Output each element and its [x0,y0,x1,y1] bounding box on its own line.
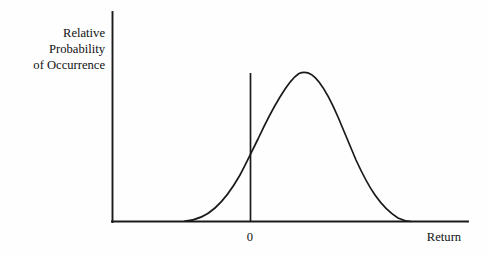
y-axis-label-line-2: Probability [49,42,106,56]
x-axis-tick-zero: 0 [247,230,253,244]
distribution-curve [185,72,411,221]
x-axis-label: Return [427,230,462,244]
probability-distribution-chart: Relative Probability of Occurrence 0 Ret… [0,0,488,254]
chart-figure: Relative Probability of Occurrence 0 Ret… [0,0,488,254]
y-axis-label-line-1: Relative [63,26,105,40]
y-axis-label-line-3: of Occurrence [33,58,105,72]
